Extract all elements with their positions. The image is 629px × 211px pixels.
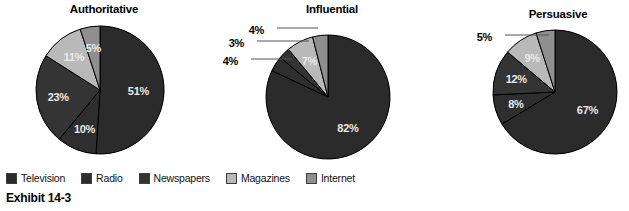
legend-item: Newspapers	[139, 172, 210, 184]
pie-chart: 67%8%12%9%	[493, 30, 617, 154]
legend-swatch-icon	[6, 173, 17, 184]
legend-swatch-icon	[81, 173, 92, 184]
legend-item-label: Radio	[96, 172, 122, 184]
pie-slice-label: 67%	[577, 104, 599, 116]
pie-slice-label: 7%	[302, 55, 318, 67]
pie-chart: 82%7%	[266, 35, 390, 159]
pie-slice-label: 23%	[48, 91, 70, 103]
pie-slice-label-outside: 4%	[223, 55, 239, 67]
pie-slice-label: 51%	[128, 85, 150, 97]
pie-slice-label-outside: 5%	[477, 31, 493, 43]
legend-swatch-icon	[139, 173, 150, 184]
pie-chart: 51%10%23%11%5%	[36, 26, 164, 154]
exhibit-caption: Exhibit 14-3	[6, 191, 71, 205]
legend-item-label: Internet	[321, 172, 355, 184]
legend-item-label: Television	[21, 172, 65, 184]
legend-swatch-icon	[226, 173, 237, 184]
pie-slice-label: 11%	[64, 51, 85, 63]
legend-swatch-icon	[306, 173, 317, 184]
legend-item: Internet	[306, 172, 355, 184]
pie-slice-label: 5%	[86, 42, 102, 54]
legend-item: Television	[6, 172, 65, 184]
pie-slice-label: 8%	[508, 98, 524, 110]
pie-charts-canvas: 51%10%23%11%5%82%7%67%8%12%9%4%3%4%5%	[0, 0, 629, 178]
pie-slice-label: 9%	[525, 52, 541, 64]
pie-slice-label-outside: 4%	[249, 24, 265, 36]
legend-item: Magazines	[226, 172, 290, 184]
pie-slice-label: 12%	[506, 73, 528, 85]
legend-item-label: Newspapers	[154, 172, 210, 184]
pie-slice-label: 10%	[74, 123, 96, 135]
legend-item-label: Magazines	[241, 172, 290, 184]
pie-slice-label: 82%	[337, 122, 359, 134]
pie-slice-label-outside: 3%	[229, 37, 245, 49]
legend-item: Radio	[81, 172, 122, 184]
exhibit-figure: Authoritative Influential Persuasive 51%…	[0, 0, 629, 211]
legend: TelevisionRadioNewspapersMagazinesIntern…	[6, 172, 371, 184]
